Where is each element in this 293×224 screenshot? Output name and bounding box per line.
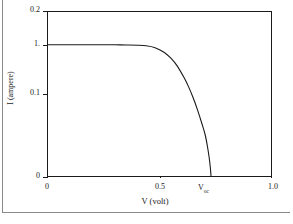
y-tick-label-0: 0 bbox=[12, 172, 40, 180]
page-rule-bottom bbox=[2, 212, 290, 213]
y-axis-title: I (ampere) bbox=[7, 53, 15, 123]
x-axis-title: V (volt) bbox=[100, 197, 210, 206]
plot-area bbox=[47, 11, 272, 177]
iv-curve-svg bbox=[48, 12, 271, 176]
figure-container: 0.2 1. 0.1 0 0 0.5 1.0 Voc I (ampere) V … bbox=[0, 0, 293, 224]
page-rule-left bbox=[2, 0, 3, 212]
y-tick-label-0p1: 0.1 bbox=[12, 89, 40, 97]
y-tick-label-0p2: 0.2 bbox=[12, 6, 40, 14]
voc-annotation: Voc bbox=[198, 184, 209, 194]
y-tick-label-1: 1. bbox=[12, 40, 40, 48]
iv-curve-path bbox=[48, 45, 211, 176]
x-tick-label-0p5: 0.5 bbox=[145, 183, 175, 191]
x-tick-label-1p0: 1.0 bbox=[258, 183, 288, 191]
voc-subscript-text: oc bbox=[204, 188, 209, 194]
x-tick-label-0: 0 bbox=[32, 183, 62, 191]
